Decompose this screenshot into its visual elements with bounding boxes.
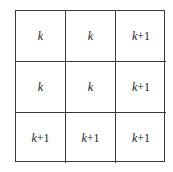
cell-variable: k xyxy=(38,80,43,95)
grid-cell-r3c3: k+1 xyxy=(116,113,166,163)
cell-suffix: +1 xyxy=(137,29,150,44)
grid-cell-r3c1: k+1 xyxy=(16,113,66,163)
grid-cell-r2c1: k xyxy=(16,62,66,113)
cell-suffix: +1 xyxy=(87,131,100,146)
cell-suffix: +1 xyxy=(37,131,50,146)
grid-cell-r2c3: k+1 xyxy=(116,62,166,113)
grid-cell-r1c3: k+1 xyxy=(116,11,166,62)
cell-suffix: +1 xyxy=(137,131,150,146)
cell-suffix: +1 xyxy=(137,80,150,95)
grid-cell-r1c1: k xyxy=(16,11,66,62)
grid-cell-r1c2: k xyxy=(66,11,116,62)
cell-variable: k xyxy=(88,29,93,44)
cell-variable: k xyxy=(88,80,93,95)
value-grid: k k k+1 k k k+1 k+1 k+1 k+1 xyxy=(15,10,165,162)
grid-cell-r2c2: k xyxy=(66,62,116,113)
grid-cell-r3c2: k+1 xyxy=(66,113,116,163)
cell-variable: k xyxy=(38,29,43,44)
